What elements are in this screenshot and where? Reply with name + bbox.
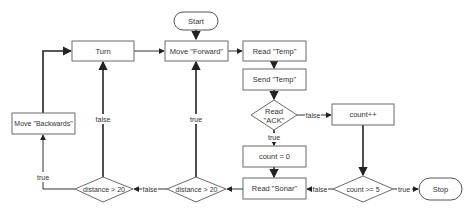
- node-read-temp[interactable]: Read "Temp": [243, 41, 306, 61]
- svg-text:distance > 20: distance > 20: [83, 186, 125, 193]
- svg-text:Move "Forward": Move "Forward": [170, 47, 224, 56]
- svg-text:Turn: Turn: [95, 47, 110, 56]
- node-read-sonar[interactable]: Read "Sonar": [243, 178, 306, 199]
- edge-label-ack-false: false: [305, 110, 321, 120]
- svg-text:false: false: [96, 116, 111, 123]
- node-distance-check-1[interactable]: distance > 20: [75, 177, 133, 202]
- svg-text:false: false: [143, 186, 158, 193]
- svg-text:Read "Temp": Read "Temp": [253, 47, 297, 56]
- edge-move-backwards-to-turn: [43, 51, 71, 113]
- node-count-zero[interactable]: count = 0: [243, 146, 306, 167]
- flowchart-canvas: false true false true false true false t…: [0, 0, 471, 215]
- node-turn[interactable]: Turn: [72, 41, 134, 61]
- node-send-temp[interactable]: Send "Temp": [243, 69, 306, 90]
- svg-text:false: false: [306, 112, 321, 119]
- edge-label-dist2-false: false: [142, 184, 158, 194]
- svg-text:Stop: Stop: [433, 185, 448, 194]
- node-distance-check-2[interactable]: distance > 20: [167, 177, 226, 202]
- node-count-check[interactable]: count >= 5: [333, 176, 393, 202]
- edge-label-dist2-true: true: [187, 114, 205, 124]
- node-move-forward[interactable]: Move "Forward": [165, 41, 228, 61]
- node-count-inc[interactable]: count++: [332, 104, 394, 125]
- svg-text:"ACK": "ACK": [264, 116, 285, 125]
- svg-text:count++: count++: [349, 110, 377, 119]
- edge-label-ack-true: true: [265, 133, 283, 142]
- svg-text:true: true: [190, 116, 202, 123]
- svg-text:count = 0: count = 0: [259, 152, 290, 161]
- node-start[interactable]: Start: [174, 12, 218, 30]
- svg-text:true: true: [398, 186, 410, 193]
- node-move-backwards[interactable]: Move "Backwards": [12, 113, 75, 134]
- edge-label-dist1-true: true: [34, 172, 52, 182]
- svg-text:Send "Temp": Send "Temp": [253, 75, 297, 84]
- svg-text:Move "Backwards": Move "Backwards": [14, 120, 73, 127]
- svg-text:distance > 20: distance > 20: [176, 186, 218, 193]
- edge-label-dist1-false: false: [94, 114, 112, 124]
- svg-text:Read: Read: [265, 107, 283, 116]
- svg-text:Read "Sonar": Read "Sonar": [252, 184, 298, 193]
- svg-text:true: true: [268, 134, 280, 141]
- edge-label-count-true: true: [397, 184, 412, 194]
- svg-text:true: true: [37, 174, 49, 181]
- edge-label-count-false: false: [312, 184, 328, 194]
- node-stop[interactable]: Stop: [419, 178, 462, 200]
- svg-text:false: false: [313, 186, 328, 193]
- svg-text:count >= 5: count >= 5: [346, 186, 379, 193]
- svg-text:Start: Start: [188, 17, 205, 26]
- node-read-ack[interactable]: Read "ACK": [251, 100, 297, 130]
